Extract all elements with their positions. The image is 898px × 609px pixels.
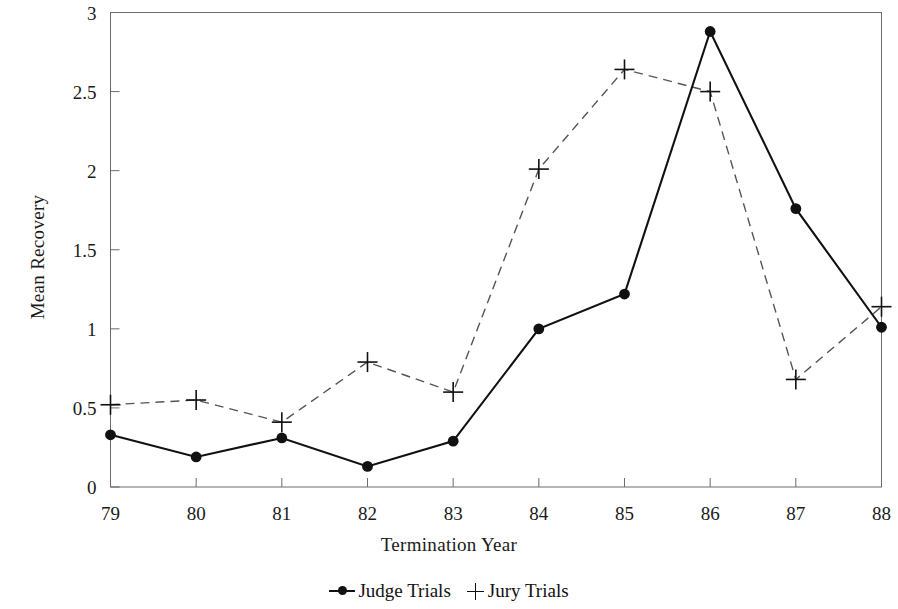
- judge-dot-marker: [191, 452, 202, 463]
- plot-frame: [111, 13, 882, 488]
- plot-area-border: [111, 13, 882, 488]
- y-tick-label: 1: [87, 319, 97, 340]
- x-axis-title: Termination Year: [0, 534, 898, 556]
- chart-canvas: 00.511.522.53 79808182838485868788: [0, 0, 898, 609]
- judge-dot-marker: [362, 461, 373, 472]
- jury-plus-marker-icon: [467, 584, 485, 598]
- y-tick-label: 2: [87, 161, 97, 182]
- y-tick-label: 0.5: [73, 398, 97, 419]
- y-tick-label: 2.5: [73, 82, 97, 103]
- chart-figure: 00.511.522.53 79808182838485868788 Mean …: [0, 0, 898, 609]
- x-tick-label: 83: [444, 503, 463, 524]
- legend-item-jury-trials: Jury Trials: [467, 580, 569, 602]
- x-tick-label: 85: [615, 503, 634, 524]
- x-tick-label: 81: [272, 503, 291, 524]
- x-tick-label: 88: [872, 503, 891, 524]
- x-tick-label: 82: [358, 503, 377, 524]
- y-tick-label: 3: [87, 3, 97, 24]
- legend-item-judge-trials: Judge Trials: [329, 580, 450, 602]
- y-tick-label: 1.5: [73, 240, 97, 261]
- x-tick-label: 79: [101, 503, 120, 524]
- legend-label-judge-trials: Judge Trials: [358, 580, 450, 602]
- judge-dot-marker: [705, 26, 716, 37]
- judge-dot-marker: [533, 323, 544, 334]
- x-axis-tick-labels: 79808182838485868788: [101, 503, 891, 524]
- x-tick-label: 84: [529, 503, 549, 524]
- judge-dot-marker: [448, 436, 459, 447]
- x-tick-label: 86: [701, 503, 720, 524]
- x-tick-label: 80: [187, 503, 206, 524]
- y-axis-tick-labels: 00.511.522.53: [73, 3, 97, 499]
- judge-dot-marker: [276, 433, 287, 444]
- x-tick-label: 87: [786, 503, 805, 524]
- y-tick-label: 0: [87, 477, 97, 498]
- y-axis-title: Mean Recovery: [27, 157, 49, 357]
- judge-dot-marker: [619, 289, 630, 300]
- legend-label-jury-trials: Jury Trials: [488, 580, 569, 602]
- judge-dot-marker: [876, 322, 887, 333]
- chart-legend: Judge Trials Jury Trials: [0, 580, 898, 602]
- judge-dot-marker: [105, 429, 116, 440]
- judge-line-dot-marker-icon: [329, 584, 355, 598]
- judge-dot-marker: [790, 203, 801, 214]
